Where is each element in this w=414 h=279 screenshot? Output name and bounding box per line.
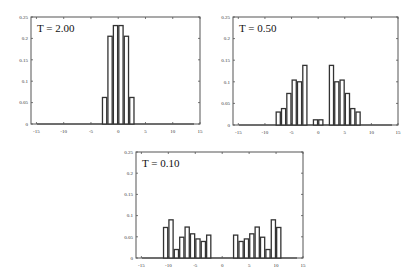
x-tick-label: -5 <box>193 263 198 268</box>
x-tick-label: -15 <box>33 129 40 134</box>
y-tick-label: 0.2 <box>127 171 134 176</box>
x-tick-label: 10 <box>170 129 176 134</box>
bar <box>335 82 339 125</box>
y-tick-label: 0.15 <box>124 192 133 197</box>
bar <box>297 82 301 125</box>
y-tick-label: 0.25 <box>124 150 133 155</box>
y-tick-label: 0 <box>26 122 29 127</box>
bar <box>313 120 317 125</box>
x-tick-label: 10 <box>274 263 280 268</box>
bar <box>287 93 291 125</box>
x-tick-label: 0 <box>117 129 120 134</box>
bar <box>261 237 265 258</box>
bar <box>266 250 270 258</box>
y-tick-label: 0.1 <box>22 79 29 84</box>
bar <box>271 220 275 258</box>
bar <box>164 227 168 258</box>
bar <box>277 227 281 258</box>
chart-title: T = 0.50 <box>239 22 277 34</box>
x-tick-label: 5 <box>248 263 251 268</box>
x-tick-label: 5 <box>144 129 147 134</box>
bar <box>130 97 134 124</box>
y-tick-label: 0.05 <box>221 101 230 106</box>
bar <box>340 80 344 125</box>
x-tick-label: -5 <box>89 129 94 134</box>
bar <box>185 227 189 258</box>
chart-panel-t-0-10: 00.050.10.150.20.25-15-10-5051015T = 0.1… <box>124 150 306 268</box>
y-tick-label: 0.25 <box>19 15 28 20</box>
x-tick-label: -10 <box>262 130 269 135</box>
chart-panel-t-2-00: 00.050.10.150.20.25-15-10-5051015T = 2.0… <box>19 15 203 134</box>
y-tick-label: 0.2 <box>22 36 29 41</box>
bar <box>319 120 323 125</box>
x-tick-label: 15 <box>396 130 402 135</box>
y-tick-label: 0 <box>131 256 134 261</box>
chart-panel-t-0-50: 00.050.10.150.20.25-15-10-5051015T = 0.5… <box>221 15 401 135</box>
bar <box>174 250 178 258</box>
x-tick-label: 15 <box>301 263 307 268</box>
x-tick-label: 5 <box>344 130 347 135</box>
bar <box>190 234 194 258</box>
bar <box>119 26 123 124</box>
x-tick-label: -5 <box>289 130 294 135</box>
bar <box>345 93 349 125</box>
bar <box>276 112 280 125</box>
bar <box>239 241 243 258</box>
figure-canvas: 00.050.10.150.20.25-15-10-5051015T = 2.0… <box>0 0 414 279</box>
x-tick-label: 0 <box>221 263 224 268</box>
y-tick-label: 0.05 <box>124 235 133 240</box>
bar <box>303 65 307 125</box>
x-tick-label: -15 <box>138 263 145 268</box>
y-tick-label: 0.2 <box>224 36 231 41</box>
bar <box>102 97 106 124</box>
chart-title: T = 2.00 <box>37 22 75 34</box>
x-tick-label: 0 <box>317 130 320 135</box>
chart-title: T = 0.10 <box>142 157 180 169</box>
bar <box>356 112 360 125</box>
x-tick-label: 10 <box>369 130 375 135</box>
bar <box>329 65 333 125</box>
bar <box>244 239 248 258</box>
y-tick-label: 0.15 <box>221 58 230 63</box>
y-tick-label: 0 <box>228 123 231 128</box>
bar <box>124 36 128 124</box>
bar <box>169 220 173 258</box>
bar <box>207 235 211 258</box>
bar <box>201 241 205 258</box>
bar <box>255 227 259 258</box>
bar <box>250 234 254 258</box>
x-tick-label: 15 <box>198 129 204 134</box>
bar <box>351 109 355 125</box>
y-tick-label: 0.1 <box>224 80 231 85</box>
bar <box>108 36 112 124</box>
bar <box>234 235 238 258</box>
bar <box>282 109 286 125</box>
bar <box>113 26 117 124</box>
x-tick-label: -10 <box>165 263 172 268</box>
bar <box>292 80 296 125</box>
y-tick-label: 0.25 <box>221 15 230 20</box>
y-tick-label: 0.15 <box>19 58 28 63</box>
y-tick-label: 0.1 <box>127 213 134 218</box>
x-tick-label: -15 <box>235 130 242 135</box>
y-tick-label: 0.05 <box>19 100 28 105</box>
x-tick-label: -10 <box>60 129 67 134</box>
bar <box>196 239 200 258</box>
bar <box>180 237 184 258</box>
